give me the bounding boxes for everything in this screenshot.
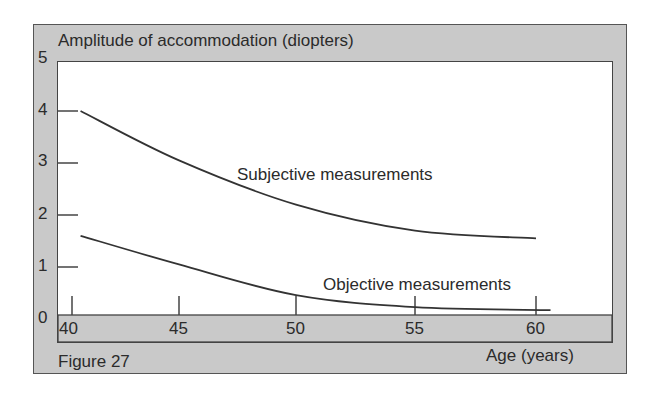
x-axis-ticks <box>72 296 536 315</box>
chart-title: Amplitude of accommodation (diopters) <box>58 32 354 49</box>
y-tick-label: 4 <box>38 101 47 118</box>
x-tick-label: 55 <box>405 320 424 337</box>
y-tick-label: 5 <box>38 49 47 66</box>
subjective-series-label: Subjective measurements <box>237 166 433 183</box>
y-tick-label: 0 <box>38 309 47 326</box>
y-tick-label: 3 <box>38 152 47 169</box>
x-tick-label: 50 <box>286 320 305 337</box>
objective-series-label: Objective measurements <box>323 276 511 293</box>
y-tick-label: 1 <box>38 257 47 274</box>
x-tick-label: 60 <box>526 320 545 337</box>
chart-canvas <box>0 0 658 393</box>
x-axis-label: Age (years) <box>486 347 574 364</box>
x-tick-label: 45 <box>169 320 188 337</box>
figure-label: Figure 27 <box>58 353 130 370</box>
y-tick-label: 2 <box>38 205 47 222</box>
objective-measurements-line <box>81 236 551 310</box>
x-tick-label: 40 <box>59 320 78 337</box>
y-axis-ticks <box>58 111 78 267</box>
